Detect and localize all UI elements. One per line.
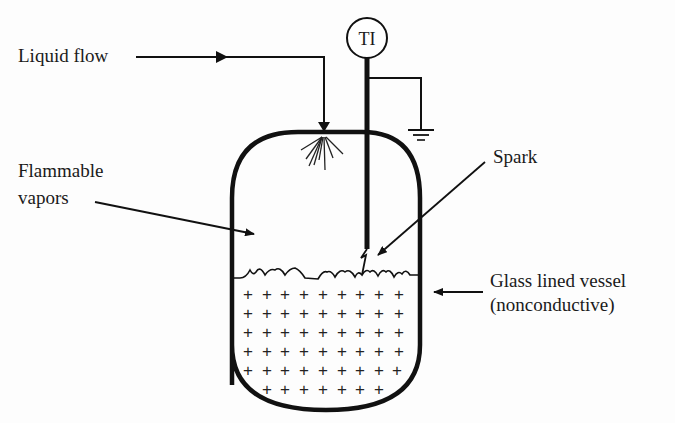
- svg-text:+: +: [374, 285, 384, 304]
- svg-text:+: +: [243, 342, 253, 361]
- svg-text:+: +: [318, 380, 328, 399]
- svg-text:+: +: [243, 304, 253, 323]
- svg-text:+: +: [243, 323, 253, 342]
- svg-text:+: +: [374, 304, 384, 323]
- spray-icon: [301, 137, 343, 170]
- spark-arrow: [378, 162, 485, 255]
- svg-text:+: +: [337, 304, 347, 323]
- svg-text:+: +: [337, 323, 347, 342]
- svg-text:+: +: [337, 361, 347, 380]
- svg-text:+: +: [299, 285, 309, 304]
- liquid-flow-line: [136, 57, 324, 128]
- flow-direction-arrow-icon: [216, 51, 228, 63]
- svg-text:+: +: [318, 361, 328, 380]
- svg-text:+: +: [394, 304, 404, 323]
- svg-text:+: +: [337, 342, 347, 361]
- glass-lined-vessel-label-line2: (nonconductive): [490, 294, 615, 316]
- svg-text:+: +: [374, 361, 384, 380]
- flammable-vapors-label-line2: vapors: [18, 187, 69, 208]
- svg-text:+: +: [392, 361, 402, 380]
- svg-text:+: +: [355, 342, 365, 361]
- svg-text:+: +: [280, 323, 290, 342]
- svg-text:+: +: [374, 380, 384, 399]
- svg-text:+: +: [243, 285, 253, 304]
- svg-text:+: +: [299, 342, 309, 361]
- svg-text:+: +: [318, 285, 328, 304]
- svg-text:+: +: [374, 323, 384, 342]
- svg-text:+: +: [355, 361, 365, 380]
- svg-text:+: +: [355, 323, 365, 342]
- ti-label: TI: [359, 29, 376, 49]
- svg-text:+: +: [262, 380, 272, 399]
- svg-text:+: +: [355, 304, 365, 323]
- temperature-indicator: TI: [347, 18, 387, 58]
- svg-text:+: +: [394, 342, 404, 361]
- svg-text:+: +: [374, 342, 384, 361]
- svg-text:+: +: [299, 323, 309, 342]
- svg-text:+: +: [355, 380, 365, 399]
- liquid-flow-label: Liquid flow: [18, 45, 109, 66]
- svg-text:+: +: [318, 304, 328, 323]
- svg-text:+: +: [262, 361, 272, 380]
- svg-text:+: +: [337, 285, 347, 304]
- liquid-surface: [233, 268, 418, 279]
- svg-text:+: +: [355, 285, 365, 304]
- charge-grid: +++++++++ +++++++++ +++++++++ +++++++++ …: [243, 285, 404, 399]
- svg-text:+: +: [243, 361, 253, 380]
- svg-text:+: +: [280, 285, 290, 304]
- svg-text:+: +: [299, 304, 309, 323]
- svg-text:+: +: [262, 342, 272, 361]
- diagram-canvas: Liquid flow TI +++++++++ +++++++++: [0, 0, 675, 423]
- svg-text:+: +: [280, 361, 290, 380]
- vessel-diagram: Liquid flow TI +++++++++ +++++++++: [0, 0, 675, 423]
- flammable-vapors-label-line1: Flammable: [18, 160, 103, 181]
- svg-text:+: +: [318, 323, 328, 342]
- svg-text:+: +: [299, 380, 309, 399]
- svg-text:+: +: [262, 323, 272, 342]
- ground-icon: [367, 78, 434, 140]
- svg-text:+: +: [394, 323, 404, 342]
- svg-text:+: +: [299, 361, 309, 380]
- svg-text:+: +: [280, 342, 290, 361]
- svg-text:+: +: [318, 342, 328, 361]
- glass-lined-vessel-label-line1: Glass lined vessel: [490, 270, 626, 291]
- svg-text:+: +: [280, 304, 290, 323]
- svg-text:+: +: [337, 380, 347, 399]
- spark-label: Spark: [493, 146, 538, 167]
- svg-text:+: +: [394, 285, 404, 304]
- svg-text:+: +: [262, 285, 272, 304]
- svg-text:+: +: [262, 304, 272, 323]
- svg-text:+: +: [280, 380, 290, 399]
